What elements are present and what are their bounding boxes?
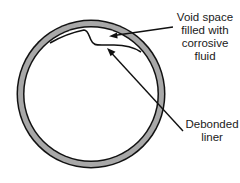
void-label-line: Void space — [173, 11, 237, 24]
void-space-label: Void space filled with corrosive fluid — [173, 11, 237, 63]
void-label-line: corrosive — [173, 37, 237, 50]
pipe-bore — [25, 28, 158, 161]
debonded-liner-label: Debonded liner — [182, 118, 240, 144]
liner-label-line: Debonded — [182, 118, 240, 131]
void-label-line: fluid — [173, 50, 237, 63]
void-label-line: filled with — [173, 24, 237, 37]
liner-label-line: liner — [182, 131, 240, 144]
